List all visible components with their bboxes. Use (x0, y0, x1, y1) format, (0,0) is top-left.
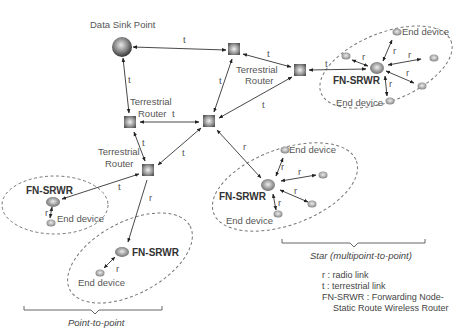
router-B-label-2: Router (245, 75, 274, 86)
router-icon-E (142, 164, 154, 176)
router-icon-D (203, 115, 215, 127)
fn-srwr-label: FN-SRWR (219, 191, 267, 202)
p2p-group-brace (24, 306, 162, 314)
link-label-r: r (389, 78, 392, 89)
link-star-mid-4 (273, 194, 276, 210)
legend-radio-link: r : radio link (322, 270, 369, 280)
end-device-icon (342, 53, 351, 60)
fn-srwr-label: FN-SRWR (333, 75, 381, 86)
link-routerD-routerE (158, 128, 201, 165)
end-device-icon (430, 55, 439, 62)
link-label-t: t (172, 108, 175, 119)
data-sink-label: Data Sink Point (90, 19, 156, 30)
link-label-t: t (118, 181, 121, 192)
link-label-r: r (362, 51, 365, 62)
link-label-t: t (267, 48, 270, 59)
fn-srwr-node-icon (46, 197, 60, 207)
link-sink-routerA (133, 47, 226, 50)
link-label-t: t (219, 75, 222, 86)
router-B-label-1: Terrestrial (236, 64, 278, 75)
link-label-r: r (278, 197, 281, 208)
end-device-icon (308, 201, 317, 208)
end-device-label: End device (78, 277, 125, 288)
legend-fn-srwr-1: FN-SRWR : Forwarding Node- (322, 292, 444, 302)
link-label-t: t (142, 137, 145, 148)
link-label-t: t (183, 34, 186, 45)
end-device-label: End device (336, 97, 383, 108)
router-E-label-2: Router (105, 158, 134, 169)
link-fn-left-device (50, 207, 52, 218)
fn-srwr-node-icon (370, 62, 384, 74)
link-label-t: t (128, 74, 131, 85)
link-star-top-2 (383, 40, 392, 61)
network-diagram: Data Sink Point Terrestrial Router Terre… (0, 0, 467, 333)
star-group-middle-boundary (201, 125, 370, 248)
star-group-label: Star (multipoint-to-point) (310, 250, 412, 261)
link-label-t: t (182, 147, 185, 158)
link-label-r: r (149, 192, 152, 203)
link-label-t: t (325, 58, 328, 69)
end-device-icon (47, 220, 56, 227)
link-label-r: r (243, 141, 246, 152)
end-device-icon (418, 83, 427, 90)
link-star-top-1 (352, 60, 368, 66)
link-label-r: r (45, 207, 48, 218)
fn-srwr-node-icon (115, 247, 129, 257)
link-fn-bottom-device (104, 257, 115, 268)
link-label-r: r (281, 161, 284, 172)
router-E-label-1: Terrestrial (98, 146, 140, 157)
link-label-r: r (298, 166, 301, 177)
end-device-icon (319, 172, 328, 179)
end-device-label: End device (226, 215, 273, 226)
link-star-top-5 (385, 76, 387, 96)
link-label-r: r (393, 45, 396, 56)
end-device-icon (96, 270, 105, 277)
link-sink-routerC (123, 58, 129, 113)
end-device-icon (386, 98, 395, 105)
router-C-label-2: Router (138, 108, 167, 119)
data-sink-icon (112, 37, 132, 57)
end-device-label: End device (57, 213, 104, 224)
legend-fn-srwr-2: Static Route Wireless Router (333, 303, 449, 313)
link-label-r: r (408, 49, 411, 60)
end-device-label: End device (289, 144, 336, 155)
router-icon-A (228, 43, 240, 55)
link-label-r: r (406, 67, 409, 78)
link-label-r: r (116, 263, 119, 274)
router-icon-B (294, 64, 306, 76)
router-icon-C (124, 116, 136, 128)
fn-srwr-label: FN-SRWR (132, 247, 180, 258)
legend-terrestrial-link: t : terrestrial link (322, 281, 386, 291)
fn-srwr-label: FN-SRWR (26, 185, 74, 196)
star-group-brace (282, 239, 425, 247)
link-routerB-fn-top (309, 69, 366, 70)
link-routerA-routerD (214, 59, 232, 112)
fn-srwr-node-icon (261, 179, 275, 191)
end-device-icon (393, 29, 402, 36)
end-device-icon (274, 211, 283, 218)
link-routerD-fn-middle (217, 130, 261, 178)
link-label-t: t (262, 99, 265, 110)
link-routerE-fn-bottom (128, 180, 147, 242)
link-label-r: r (294, 185, 297, 196)
router-C-label-1: Terrestrial (130, 96, 172, 107)
link-star-top-3 (388, 59, 421, 65)
p2p-group-label: Point-to-point (68, 317, 125, 328)
end-device-label: End device (402, 26, 449, 37)
